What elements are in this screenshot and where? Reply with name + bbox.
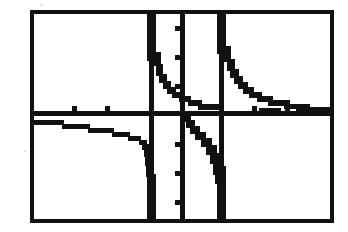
graph-plot-area[interactable] (34, 14, 330, 219)
calculator-screen-frame (30, 10, 334, 223)
curve-branch-upper-right (224, 46, 330, 112)
scan-speck (40, 4, 43, 6)
x-axis-tick (252, 106, 257, 111)
scan-speck (24, 150, 26, 152)
curve-branch-middle-descending (182, 114, 222, 184)
y-axis-tick (175, 26, 181, 31)
curve-branch-upper-middle-left (154, 52, 220, 110)
x-axis-tick (105, 106, 110, 111)
vertical-asymptote-right (217, 14, 226, 219)
calculator-screenshot (0, 0, 348, 232)
curve-branch-lower-left (34, 120, 153, 177)
y-axis-tick (175, 200, 181, 205)
vertical-asymptote-left (147, 14, 156, 219)
x-axis-tick (72, 106, 77, 111)
y-axis-tick (175, 171, 181, 176)
y-axis-tick (175, 142, 181, 147)
y-axis-tick (175, 55, 181, 60)
graph-svg (34, 14, 330, 219)
